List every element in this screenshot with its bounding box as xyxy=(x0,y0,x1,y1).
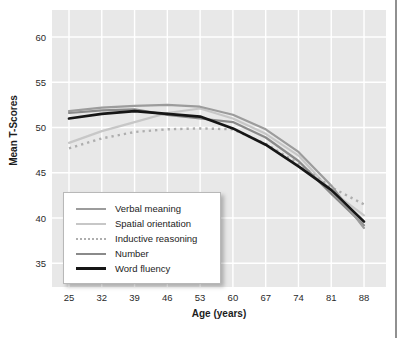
legend-item: Verbal meaning xyxy=(72,201,212,216)
page-edge-rule xyxy=(395,0,397,338)
x-tick-label: 39 xyxy=(129,292,140,303)
x-tick-label: 60 xyxy=(228,292,239,303)
y-tick-label: 35 xyxy=(35,258,46,269)
x-tick-label: 25 xyxy=(64,292,75,303)
x-tick-label: 53 xyxy=(195,292,206,303)
legend-label: Inductive reasoning xyxy=(115,233,197,244)
legend-item: Number xyxy=(72,246,212,261)
y-tick-label: 50 xyxy=(35,122,46,133)
legend-swatch-verbal-meaning xyxy=(76,208,106,210)
x-tick-label: 46 xyxy=(162,292,173,303)
legend-label: Word fluency xyxy=(115,263,170,274)
legend-label: Spatial orientation xyxy=(115,218,191,229)
line-chart: 35404550556025323946536067748188Age (yea… xyxy=(0,0,402,338)
x-axis-title: Age (years) xyxy=(192,308,246,319)
chart-legend: Verbal meaningSpatial orientationInducti… xyxy=(63,192,221,284)
y-tick-label: 40 xyxy=(35,213,46,224)
legend-item: Word fluency xyxy=(72,261,212,276)
x-tick-label: 32 xyxy=(96,292,107,303)
legend-label: Verbal meaning xyxy=(115,203,181,214)
x-tick-label: 88 xyxy=(359,292,370,303)
legend-item: Spatial orientation xyxy=(72,216,212,231)
legend-swatch-word-fluency xyxy=(76,267,106,270)
y-tick-label: 55 xyxy=(35,77,46,88)
y-tick-label: 60 xyxy=(35,32,46,43)
legend-item: Inductive reasoning xyxy=(72,231,212,246)
x-tick-label: 81 xyxy=(326,292,337,303)
legend-swatch-inductive-reasoning xyxy=(76,238,106,240)
legend-label: Number xyxy=(115,248,149,259)
y-tick-label: 45 xyxy=(35,167,46,178)
y-axis-title: Mean T-Scores xyxy=(8,95,19,166)
x-tick-label: 67 xyxy=(260,292,271,303)
legend-swatch-number xyxy=(76,253,106,255)
x-tick-label: 74 xyxy=(293,292,304,303)
figure: 35404550556025323946536067748188Age (yea… xyxy=(0,0,402,338)
legend-swatch-spatial-orientation xyxy=(76,223,106,225)
